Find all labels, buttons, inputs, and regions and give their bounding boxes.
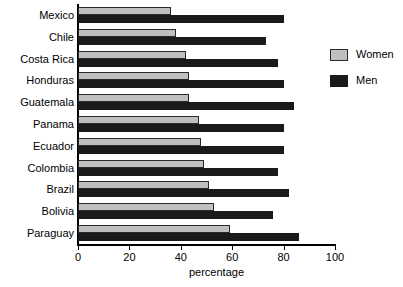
- x-tick-mark: [78, 245, 79, 250]
- category-label: Brazil: [46, 183, 74, 195]
- bar-women: [78, 51, 186, 59]
- x-tick-mark: [284, 245, 285, 250]
- x-axis-line: [77, 244, 336, 246]
- legend-label-women: Women: [356, 47, 394, 62]
- x-tick-label: 0: [58, 251, 98, 264]
- bar-women: [78, 7, 171, 15]
- bar-row: Panama: [0, 113, 403, 135]
- bar-men: [78, 189, 289, 197]
- bar-row: Bolivia: [0, 200, 403, 222]
- x-tick-label: 60: [212, 251, 252, 264]
- category-label: Guatemala: [20, 96, 74, 108]
- category-label: Costa Rica: [20, 53, 74, 65]
- chart-legend: Women Men: [330, 46, 403, 98]
- bar-row: Chile: [0, 26, 403, 48]
- bar-men: [78, 37, 266, 45]
- x-tick-label: 20: [109, 251, 149, 264]
- bar-women: [78, 138, 201, 146]
- bar-row: Mexico: [0, 4, 403, 26]
- x-tick-mark: [129, 245, 130, 250]
- bar-men: [78, 15, 284, 23]
- legend-swatch-women: [330, 49, 348, 61]
- bar-men: [78, 233, 299, 241]
- x-tick-mark: [181, 245, 182, 250]
- x-tick-label: 100: [315, 251, 355, 264]
- bar-men: [78, 146, 284, 154]
- bar-men: [78, 80, 284, 88]
- category-label: Paraguay: [27, 227, 74, 239]
- x-tick-mark: [335, 245, 336, 250]
- bar-chart: 020406080100 MexicoChileCosta RicaHondur…: [0, 0, 403, 287]
- bar-row: Brazil: [0, 179, 403, 201]
- category-label: Mexico: [39, 9, 74, 21]
- category-label: Chile: [49, 31, 74, 43]
- bar-men: [78, 168, 278, 176]
- bar-women: [78, 72, 189, 80]
- bar-women: [78, 181, 209, 189]
- bar-women: [78, 116, 199, 124]
- bar-men: [78, 211, 273, 219]
- x-tick-mark: [232, 245, 233, 250]
- category-label: Panama: [33, 118, 74, 130]
- bar-row: Paraguay: [0, 222, 403, 244]
- category-label: Honduras: [26, 74, 74, 86]
- bar-women: [78, 203, 214, 211]
- bar-men: [78, 59, 278, 67]
- legend-swatch-men: [330, 75, 348, 87]
- legend-item-women: Women: [330, 46, 403, 72]
- bar-men: [78, 102, 294, 110]
- legend-label-men: Men: [356, 73, 377, 88]
- category-label: Bolivia: [42, 205, 74, 217]
- category-label: Colombia: [28, 162, 74, 174]
- bar-women: [78, 29, 176, 37]
- category-label: Ecuador: [33, 140, 74, 152]
- bar-women: [78, 225, 230, 233]
- bar-women: [78, 94, 189, 102]
- bar-row: Colombia: [0, 157, 403, 179]
- x-tick-label: 40: [161, 251, 201, 264]
- legend-item-men: Men: [330, 72, 403, 98]
- bar-row: Ecuador: [0, 135, 403, 157]
- bar-women: [78, 160, 204, 168]
- x-axis-title: percentage: [0, 266, 403, 278]
- bar-men: [78, 124, 284, 132]
- x-tick-label: 80: [264, 251, 304, 264]
